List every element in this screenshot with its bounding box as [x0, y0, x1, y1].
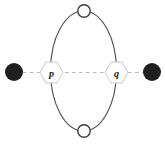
filled-circle-left [5, 63, 23, 81]
open-circle-bottom [78, 125, 90, 137]
node-q-label: q [114, 68, 119, 79]
filled-circle-right [143, 63, 161, 81]
diagram-canvas: p q [0, 0, 165, 145]
graph-diagram: p q [0, 0, 165, 145]
open-circle-top [78, 5, 90, 17]
node-p-label: p [48, 68, 54, 79]
